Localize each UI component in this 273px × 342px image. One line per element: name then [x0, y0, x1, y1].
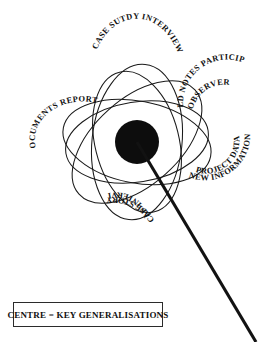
petal-label-observer: OBSERVER: [186, 78, 231, 111]
petal-label-observer-text: OBSERVER: [186, 78, 231, 111]
petal-label-case-study-interview-text: CASE SUTDY INTERVIEW: [90, 12, 184, 55]
petal-label-group: CASE SUTDY INTERVIEW FIELD NOTES PARTICI…: [0, 0, 252, 224]
caption-box: CENTRE = KEY GENERALISATIONS: [13, 302, 163, 327]
petal-label-case-study-interview: CASE SUTDY INTERVIEW: [90, 12, 184, 55]
caption-text: CENTRE = KEY GENERALISATIONS: [8, 310, 169, 320]
petal-diagram-canvas: CASE SUTDY INTERVIEW FIELD NOTES PARTICI…: [0, 0, 273, 342]
petal-label-documents-reports-text: DOCUMENTS REPORTS: [0, 0, 99, 149]
petal-label-documents-reports: DOCUMENTS REPORTS: [0, 0, 99, 149]
petal-diagram-svg: CASE SUTDY INTERVIEW FIELD NOTES PARTICI…: [0, 0, 273, 342]
petal-label-new-information-text: NEW INFORMATION: [188, 133, 252, 182]
petal-label-new-information: NEW INFORMATION: [188, 133, 252, 182]
